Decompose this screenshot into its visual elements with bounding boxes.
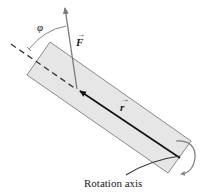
- vector-arrow-icon: →: [77, 31, 85, 39]
- force-label: → F: [76, 37, 83, 48]
- rotation-axis-label: Rotation axis: [84, 178, 142, 189]
- angle-label: φ: [37, 22, 43, 33]
- diagram-canvas: [0, 0, 210, 194]
- rod: [27, 42, 191, 173]
- vector-arrow-icon: →: [121, 96, 129, 104]
- position-label: → r: [120, 102, 124, 113]
